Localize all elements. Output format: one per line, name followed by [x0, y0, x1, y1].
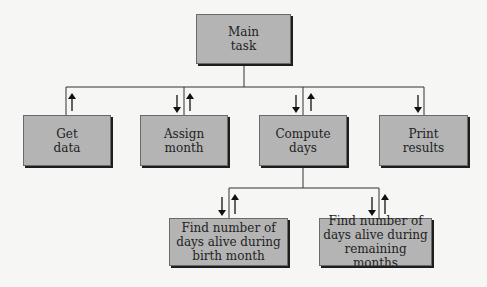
remaining-months-box: Find number of days alive during remaini… — [319, 218, 432, 266]
box-label: Find number of — [320, 214, 431, 228]
box-label: results — [403, 141, 445, 155]
box-label: days — [275, 141, 330, 155]
box-label: task — [228, 39, 259, 53]
box-label: birth month — [176, 249, 281, 263]
box-label: Get — [54, 127, 81, 141]
box-label: Find number of — [176, 221, 281, 235]
box-label: Main — [228, 25, 259, 39]
get-data-box: Get data — [23, 115, 111, 166]
birth-month-box: Find number of days alive during birth m… — [169, 218, 288, 266]
compute-days-box: Compute days — [259, 115, 347, 166]
box-label: month — [164, 141, 204, 155]
box-label: Print — [403, 127, 445, 141]
box-label: days alive during — [176, 235, 281, 249]
assign-month-box: Assign month — [140, 115, 228, 166]
print-results-box: Print results — [379, 115, 468, 166]
box-label: data — [54, 141, 81, 155]
box-label: Assign — [164, 127, 204, 141]
box-label: days alive during — [320, 228, 431, 242]
box-label: remaining months — [320, 242, 431, 270]
main-task-box: Main task — [196, 14, 291, 64]
box-label: Compute — [275, 127, 330, 141]
